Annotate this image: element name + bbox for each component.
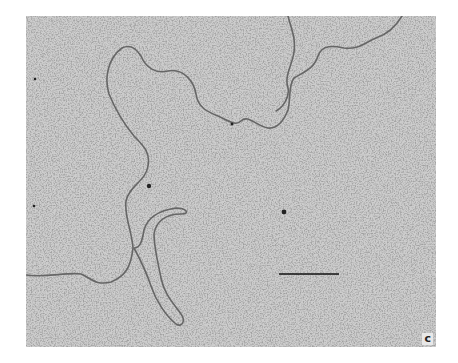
- micrograph-image: c: [26, 16, 436, 347]
- micrograph-texture: [26, 16, 436, 347]
- panel-label: c: [422, 333, 433, 345]
